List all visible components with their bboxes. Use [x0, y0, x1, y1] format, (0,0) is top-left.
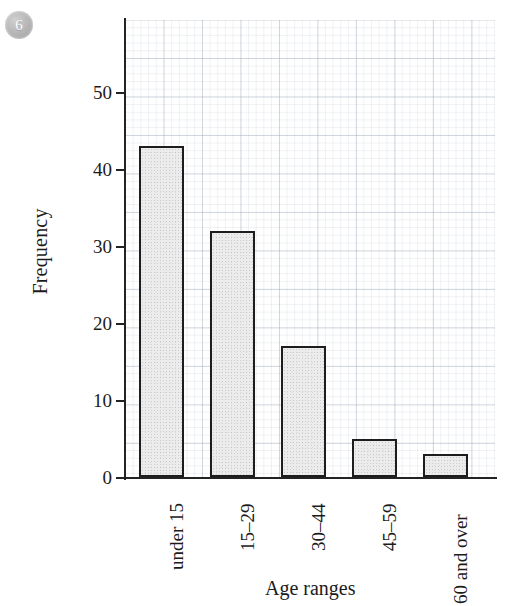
y-axis-tick: [116, 246, 125, 248]
x-axis-line: [117, 477, 497, 479]
x-axis-category-label-45-59: 45–59: [380, 504, 399, 552]
y-axis-tick: [116, 477, 125, 479]
x-axis-category-label-15-29: 15–29: [238, 504, 257, 552]
bar-30-44: [281, 346, 326, 477]
bar-45-59: [352, 439, 397, 477]
y-axis-tick: [116, 169, 125, 171]
bar-under-15: [139, 146, 184, 477]
y-axis-tick: [116, 323, 125, 325]
y-axis-tick-label: 50: [76, 83, 112, 102]
x-axis-title: Age ranges: [265, 578, 356, 598]
y-axis-title: Frequency: [29, 172, 52, 332]
x-axis-category-label-30-44: 30–44: [309, 504, 328, 552]
y-axis-tick-label: 20: [76, 314, 112, 333]
y-axis-tick-label: 10: [76, 391, 112, 410]
bar-15-29: [210, 231, 255, 477]
y-axis-tick: [116, 400, 125, 402]
y-axis-tick-label: 40: [76, 160, 112, 179]
y-axis-tick: [116, 92, 125, 94]
bar-60-and-over: [423, 454, 468, 477]
y-axis-tick-label: 30: [76, 237, 112, 256]
bar-chart-figure: 0 10 20 30 40 50 Frequency under 15 15–2…: [0, 0, 513, 606]
y-axis-line: [124, 18, 126, 480]
x-axis-category-label-under-15: under 15: [167, 503, 186, 570]
x-axis-category-label-60-and-over: 60 and over: [451, 514, 470, 604]
y-axis-tick-label: 0: [76, 468, 112, 487]
